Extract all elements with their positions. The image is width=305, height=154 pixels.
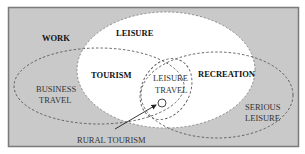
venn-diagram: WORK LEISURE TOURISM RECREATION LEISURE … — [0, 0, 305, 154]
label-tourism: TOURISM — [91, 70, 131, 80]
label-business-travel-line2: TRAVEL — [39, 95, 71, 105]
label-leisure-travel-line1: LEISURE — [153, 73, 188, 83]
rural-tourism-circle — [158, 99, 166, 107]
label-business-travel-line1: BUSINESS — [36, 84, 76, 94]
label-leisure: LEISURE — [116, 28, 154, 38]
label-serious-leisure-line2: LEISURE — [245, 113, 280, 123]
label-leisure-travel-line2: TRAVEL — [155, 85, 187, 95]
label-work: WORK — [42, 33, 70, 43]
label-recreation: RECREATION — [198, 69, 256, 79]
label-serious-leisure-line1: SERIOUS — [245, 102, 281, 112]
label-rural-tourism: RURAL TOURISM — [77, 135, 146, 145]
